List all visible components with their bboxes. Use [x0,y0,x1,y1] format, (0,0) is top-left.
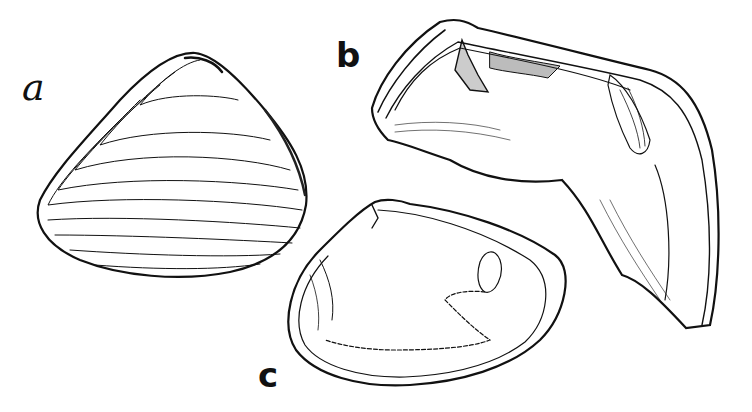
shell-drawings [0,0,752,412]
shell-c-interior [288,200,565,386]
shell-illustration-figure: a b c [0,0,752,412]
shell-a-exterior [38,53,307,277]
shell-b-hinge-fragment [372,20,719,328]
